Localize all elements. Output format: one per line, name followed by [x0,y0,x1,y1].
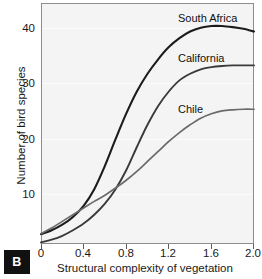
y-tick-40: 40 [0,22,35,34]
y-axis-ticks: 40 30 20 10 [0,0,262,279]
series-label-california: California [178,52,224,64]
x-axis-title: Structural complexity of vegetation [28,262,262,275]
y-axis-title: Number of bird species [15,36,28,216]
x-tick-0-8: 0.8 [106,247,146,259]
x-tick-1-6: 1.6 [191,247,231,259]
figure-panel-b: 40 30 20 10 0 0.4 0.8 1.2 1.6 2.0 Struct… [0,0,262,279]
x-tick-0-4: 0.4 [63,247,103,259]
series-label-south-africa: South Africa [178,12,237,24]
panel-badge: B [4,250,30,274]
x-tick-1-2: 1.2 [148,247,188,259]
series-label-chile: Chile [178,103,203,115]
x-tick-2-0: 2.0 [233,247,262,259]
